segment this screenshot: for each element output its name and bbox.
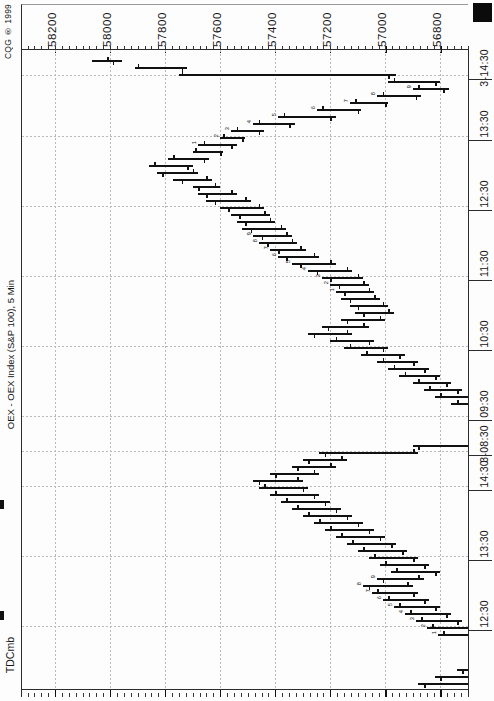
bar-open-tick	[363, 281, 365, 285]
bar-open-tick	[457, 400, 459, 404]
bar-close-tick	[328, 327, 330, 331]
bar-open-tick	[284, 113, 286, 117]
bottom-tick	[248, 693, 249, 697]
bar-open-tick	[107, 57, 109, 61]
bar-open-tick	[204, 141, 206, 145]
bottom-tick	[165, 690, 166, 697]
bar-close-tick	[358, 523, 360, 527]
bar-close-tick	[204, 159, 206, 163]
time-tick-label: 10:30	[478, 320, 490, 348]
bar-close-tick	[443, 89, 445, 93]
bottom-tick	[62, 693, 63, 697]
time-axis-tick	[468, 350, 492, 351]
bottom-tick	[351, 693, 352, 697]
bar-close-tick	[330, 278, 332, 282]
bar-range	[292, 508, 342, 510]
copyright-label: CQG ® 1999	[3, 4, 13, 59]
chart-window: CQG ® 1999 OEX - OEX Index (S&P 100), 5 …	[0, 0, 494, 701]
time-axis[interactable]: 12:3013:3014:303-08:3009:3010:3011:3012:…	[468, 50, 492, 697]
bar-open-tick	[418, 575, 420, 579]
bottom-tick	[392, 693, 393, 697]
bar-close-tick	[113, 61, 115, 65]
bottom-tick	[76, 693, 77, 697]
bar-close-tick	[435, 607, 437, 611]
bar-open-tick	[259, 120, 261, 124]
bar-close-tick	[206, 194, 208, 198]
bar-range	[358, 550, 408, 552]
bar-close-tick	[402, 551, 404, 555]
bar-close-tick	[383, 348, 385, 352]
bar-open-tick	[314, 470, 316, 474]
price-gridline	[110, 50, 111, 697]
bottom-tick	[172, 693, 173, 697]
bar-open-tick	[418, 85, 420, 89]
bottom-tick	[241, 693, 242, 697]
bar-range	[308, 270, 352, 272]
bar-range	[242, 228, 286, 230]
bar-close-tick	[336, 509, 338, 513]
bar-open-tick	[330, 526, 332, 530]
bottom-tick	[145, 693, 146, 697]
bar-range	[325, 529, 375, 531]
td-count-label: 8	[371, 92, 377, 95]
bottom-tick	[103, 693, 104, 697]
bar-close-tick	[350, 299, 352, 303]
bar-open-tick	[286, 498, 288, 502]
bottom-tick	[447, 693, 448, 697]
bottom-tick	[179, 693, 180, 697]
bar-open-tick	[366, 351, 368, 355]
bar-open-tick	[297, 477, 299, 481]
bar-range	[391, 571, 441, 573]
td-count-label: 6	[377, 596, 383, 599]
bar-range	[347, 543, 397, 545]
bar-open-tick	[336, 337, 338, 341]
bar-open-tick	[347, 267, 349, 271]
bar-close-tick	[314, 495, 316, 499]
bar-close-tick	[228, 208, 230, 212]
bottom-tick	[110, 690, 111, 697]
td-count-label: 4	[399, 610, 405, 613]
bottom-tick	[323, 693, 324, 697]
bar-close-tick	[369, 341, 371, 345]
bar-open-tick	[245, 197, 247, 201]
bar-range	[278, 116, 336, 118]
bar-open-tick	[363, 323, 365, 327]
bar-range	[253, 480, 303, 482]
bar-close-tick	[424, 369, 426, 373]
bar-range	[314, 522, 364, 524]
td-count-label: 2	[324, 281, 330, 284]
bar-close-tick	[162, 173, 164, 177]
time-tick-label: 13:30	[478, 530, 490, 558]
time-axis-tick	[468, 280, 492, 281]
bar-range	[319, 452, 418, 454]
bar-open-tick	[405, 372, 407, 376]
bottom-tick	[282, 693, 283, 697]
study-name-label: TDCmb	[4, 637, 16, 673]
bar-range	[135, 67, 187, 69]
bar-open-tick	[388, 309, 390, 313]
bar-range	[259, 487, 309, 489]
price-gridline	[330, 50, 331, 697]
bottom-tick	[69, 693, 70, 697]
time-axis-tick	[468, 210, 492, 211]
bar-close-tick	[435, 82, 437, 86]
bar-range	[220, 207, 264, 209]
td-count-label: 5	[272, 113, 278, 116]
bar-range	[206, 200, 250, 202]
time-tick-label: 3-14:30	[478, 49, 490, 87]
bar-close-tick	[303, 488, 305, 492]
bar-open-tick	[297, 505, 299, 509]
bar-close-tick	[358, 306, 360, 310]
bar-close-tick	[239, 215, 241, 219]
price-axis[interactable]: 5820058000578005760057400572005700056800	[21, 4, 468, 50]
time-tick-label: 12:30	[478, 180, 490, 208]
td-count-label: 3	[225, 127, 231, 130]
bar-close-tick	[383, 579, 385, 583]
time-axis-tick	[468, 420, 492, 421]
bar-open-tick	[182, 71, 184, 75]
plot-area[interactable]: 987654321987654321987654321	[22, 50, 468, 697]
bottom-tick	[317, 693, 318, 697]
bar-open-tick	[286, 232, 288, 236]
bottom-tick	[303, 693, 304, 697]
bottom-tick	[454, 693, 455, 697]
